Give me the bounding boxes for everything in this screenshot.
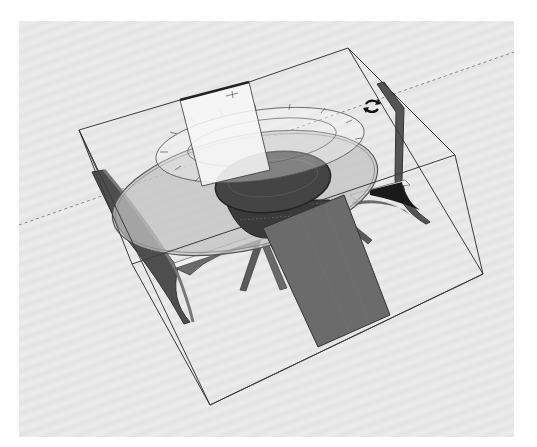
scene-canvas[interactable]	[19, 21, 514, 437]
rotate-cursor-icon	[363, 99, 381, 113]
model-viewport[interactable]: rotate	[19, 21, 514, 437]
